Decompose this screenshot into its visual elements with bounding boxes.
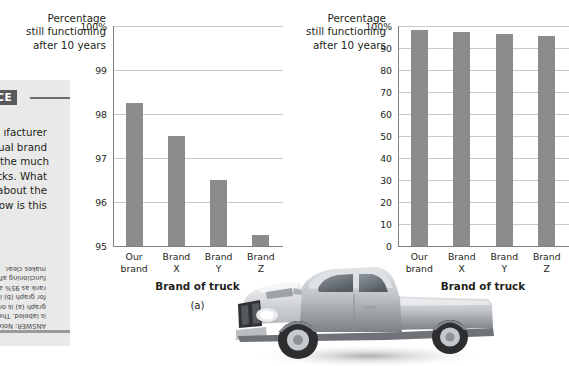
x-tick-label-line: X <box>155 263 197 275</box>
bar <box>538 36 555 246</box>
y-tick-label: 60 <box>346 109 392 120</box>
gridline <box>399 26 569 27</box>
x-tick-label-line: Our <box>113 251 155 263</box>
x-tick-label-line: brand <box>113 263 155 275</box>
x-tick-label-line: Brand <box>198 251 240 263</box>
practice-text-line: est the much <box>0 154 47 169</box>
answer-text-line: graph (a) is on <box>0 301 48 311</box>
y-tick-label: 98 <box>61 109 107 120</box>
y-tick-label: 100% <box>346 21 392 32</box>
y-tick-label: 95 <box>61 241 107 252</box>
y-tick-label: 40 <box>346 153 392 164</box>
practice-question-text: ıfacturerctual brandest the muchrucks. W… <box>0 125 70 213</box>
answer-text-line: ANSWER: Note <box>0 320 48 330</box>
bar <box>496 34 513 246</box>
sidebar-bottom-rule <box>0 330 70 333</box>
practice-text-line: ır about the <box>0 183 47 198</box>
practice-text-line: ow is this <box>0 198 47 213</box>
y-tick-label: 30 <box>346 175 392 186</box>
x-tick-label-line: Y <box>198 263 240 275</box>
bar <box>126 103 143 246</box>
x-tick-label: BrandY <box>198 251 240 274</box>
bar <box>168 136 185 246</box>
y-tick-label: 70 <box>346 87 392 98</box>
y-tick-label: 96 <box>61 197 107 208</box>
y-tick-label: 80 <box>346 65 392 76</box>
practice-text-line: ıfacturer <box>0 125 47 140</box>
x-tick-label: Ourbrand <box>113 251 155 274</box>
truck-photo <box>236 252 504 366</box>
bar <box>210 180 227 246</box>
bar <box>453 32 470 247</box>
y-tick-label: 50 <box>346 131 392 142</box>
answer-text-line: for graph (b) is <box>0 292 48 302</box>
x-tick-label: BrandZ <box>526 251 569 274</box>
y-axis-title-line: after 10 years <box>14 39 106 52</box>
y-tick-label: 100% <box>61 21 107 32</box>
bar <box>252 235 269 246</box>
practice-rule <box>30 97 70 99</box>
x-tick-label-line: Brand <box>155 251 197 263</box>
y-tick-label: 10 <box>346 219 392 230</box>
x-tick-label: BrandX <box>155 251 197 274</box>
practice-text-line: rucks. What <box>0 169 47 184</box>
practice-text-line: ctual brand <box>0 140 47 155</box>
answer-text-line: rank as 95% an <box>0 282 48 292</box>
practice-sidebar-panel: TICE ıfacturerctual brandest the muchruc… <box>0 80 70 346</box>
x-tick-label-line: Z <box>526 263 569 275</box>
answer-text-inverted: ANSWER: Noteis labeled. Thegraph (a) is … <box>0 263 48 330</box>
practice-badge: TICE <box>0 90 17 105</box>
answer-text-line: makes clear. <box>0 263 48 273</box>
gridline <box>114 26 283 27</box>
y-tick-label: 97 <box>61 153 107 164</box>
bar <box>411 30 428 246</box>
y-tick-label: 90 <box>346 43 392 54</box>
answer-text-line: is labeled. The <box>0 311 48 321</box>
y-axis-title: Percentagestill functioningafter 10 year… <box>14 12 106 52</box>
gridline <box>114 70 283 71</box>
x-tick-label-line: Brand <box>526 251 569 263</box>
y-tick-label: 0 <box>346 241 392 252</box>
y-tick-label: 99 <box>61 65 107 76</box>
answer-text-line: functioning aft <box>0 273 48 283</box>
y-tick-label: 20 <box>346 197 392 208</box>
truck-illustration <box>236 252 504 366</box>
